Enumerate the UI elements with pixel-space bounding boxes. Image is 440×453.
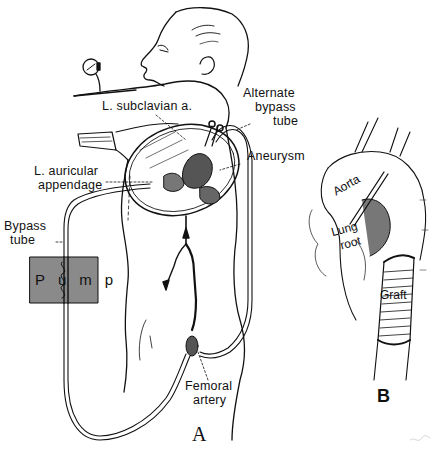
label-subclavian: L. subclavian a. [102,100,192,113]
patient-head [141,8,248,86]
aorta-vessel [163,216,198,356]
label-bypass-2: tube [10,234,35,247]
label-graft: Graft [380,288,407,302]
bypass-tube [64,184,190,440]
label-aneurysm: Aneurysm [247,150,305,163]
pressure-gauge-icon [83,59,100,91]
label-alternate-3: tube [273,115,298,128]
label-bypass-1: Bypass [4,220,46,233]
label-auricular-1: L. auricular [34,165,98,178]
pump-label: Pump [35,271,126,288]
arm-support [78,123,178,160]
panel-b-illustration [309,118,428,380]
label-auricular-2: appendage [38,179,102,192]
surgical-diagram: L. subclavian a. Alternate bypass tube L… [0,0,440,453]
panel-letter-b: B [377,386,390,407]
panel-letter-a: A [192,423,206,446]
label-femoral-1: Femoral [185,380,232,393]
label-alternate-1: Alternate [243,87,295,100]
label-alternate-2: bypass [255,101,296,114]
scan-mark [410,436,430,441]
label-femoral-2: artery [193,394,226,407]
